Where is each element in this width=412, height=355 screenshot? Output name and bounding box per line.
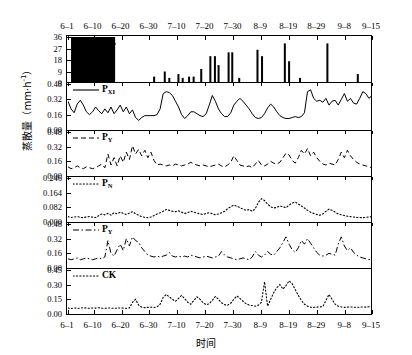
x-axis-bottom-tick-label: 7–20	[195, 321, 213, 330]
panel-py1: 0.480.320.160.00PY	[66, 131, 372, 177]
x-axis-top-tick-label: 8–9	[254, 22, 268, 31]
x-axis-bottom-tick-label: 6–20	[112, 321, 130, 330]
x-axis-top-tick-label: 7–20	[195, 22, 213, 31]
panel-ck-y-tick-label: 0.45	[22, 266, 62, 275]
x-axis-top-tick-label: 6–1	[60, 22, 74, 31]
legend-line-icon	[73, 227, 99, 233]
panel-pxi-legend-label: PXI	[102, 85, 115, 95]
x-tick-mark	[372, 223, 373, 226]
legend-line-icon	[73, 135, 99, 141]
panel-stack: 36271890P0.480.320.160.00PXI0.480.320.16…	[66, 35, 372, 315]
panel-pxi-legend: PXI	[73, 85, 115, 95]
panel-py2-y-tick-label: 0.32	[22, 234, 62, 243]
panel-precip-legend-label: P	[110, 42, 116, 52]
panel-precip-y-tick-label: 36	[22, 33, 62, 42]
precipitation-bar	[228, 52, 230, 83]
x-axis-top-tick-label: 6–30	[139, 22, 157, 31]
panel-pxi-y-tick-label: 0.32	[22, 95, 62, 104]
panel-ck-y-tick-label: 0.00	[22, 310, 62, 319]
x-tick-mark	[372, 36, 373, 40]
precipitation-bar	[218, 65, 220, 83]
x-axis-top-tick-label: 6–10	[84, 22, 102, 31]
panel-py1-legend: PY	[73, 133, 113, 143]
panel-py1-y-tick-label: 0.16	[22, 157, 62, 166]
panel-py1-plot-area	[68, 132, 372, 176]
x-axis-bottom-tick-label: 9–8	[337, 321, 351, 330]
precipitation-bar	[256, 50, 258, 83]
x-tick-mark	[372, 83, 373, 86]
panel-py1-legend-label-subscript: Y	[108, 136, 113, 143]
precipitation-bar	[200, 69, 202, 83]
panel-pn-legend-label: PN	[102, 179, 113, 189]
panel-pxi-legend-label-subscript: XI	[108, 88, 115, 95]
panel-py1-y-tick-label: 0.48	[22, 128, 62, 137]
panel-ck: 0.450.300.150.00CK	[66, 269, 372, 315]
precipitation-bar	[288, 61, 290, 83]
x-tick-mark	[372, 177, 373, 180]
panel-py1-y-tick-label: 0.32	[22, 142, 62, 151]
precipitation-bar	[177, 74, 179, 83]
precipitation-bar	[284, 43, 286, 83]
panel-py2-y-tick-label: 0.48	[22, 220, 62, 229]
precipitation-bar	[214, 56, 216, 83]
x-axis-bottom-tick-label: 6–10	[84, 321, 102, 330]
precipitation-bar	[261, 56, 263, 83]
panel-py2: 0.480.320.160.00PY	[66, 223, 372, 269]
x-axis-bottom-tick-label: 7–10	[167, 321, 185, 330]
chart-figure: 蒸散量（mm·h-1） 6–16–106–206–307–107–207–308…	[0, 0, 412, 355]
panel-py2-legend-label: PY	[102, 225, 113, 235]
panel-py2-series-line	[68, 237, 372, 260]
panel-precip-y-tick-label: 27	[22, 44, 62, 53]
panel-pn-series-line	[68, 199, 372, 218]
x-axis-top-tick-label: 9–8	[337, 22, 351, 31]
legend-line-icon	[73, 87, 99, 93]
panel-pn-legend-label-subscript: N	[108, 182, 113, 189]
precipitation-bar	[209, 56, 211, 83]
precipitation-bar	[231, 52, 233, 83]
x-axis-bottom-tick-label: 6–30	[139, 321, 157, 330]
panel-py2-y-tick-label: 0.16	[22, 249, 62, 258]
panel-py1-legend-label: PY	[102, 133, 113, 143]
panel-pn: 0.2460.1640.0820.000PN	[66, 177, 372, 223]
legend-line-icon	[73, 273, 99, 279]
panel-pn-legend: PN	[73, 179, 113, 189]
precipitation-bar	[357, 74, 359, 83]
panel-pn-plot-area	[68, 178, 372, 222]
panel-pn-y-tick-label: 0.082	[22, 203, 62, 212]
panel-ck-y-tick-mark	[67, 314, 71, 315]
x-axis-top-tick-label: 8–19	[279, 22, 297, 31]
panel-py2-plot-area	[68, 224, 372, 268]
panel-precip-legend: P	[73, 40, 116, 53]
panel-precip-y-tick-label: 9	[22, 67, 62, 76]
x-axis-top-tick-label: 7–10	[167, 22, 185, 31]
panel-py2-legend: PY	[73, 225, 113, 235]
panel-precip: 36271890P	[66, 35, 372, 83]
panel-pxi-y-tick-label: 0.48	[22, 80, 62, 89]
x-axis-bottom-tick-label: 8–29	[307, 321, 325, 330]
panel-pn-y-tick-label: 0.246	[22, 174, 62, 183]
x-axis-top-tick-label: 7–30	[223, 22, 241, 31]
panel-pxi-y-tick-label: 0.16	[22, 110, 62, 119]
panel-ck-legend: CK	[73, 271, 116, 281]
panel-ck-legend-label: CK	[102, 271, 116, 281]
precipitation-bar	[164, 72, 166, 84]
x-axis-top-tick-label: 8–29	[307, 22, 325, 31]
x-axis-bottom-tick-label: 8–9	[254, 321, 268, 330]
x-tick-mark	[372, 131, 373, 134]
precipitation-bar	[326, 43, 328, 83]
x-axis-bottom-tick-label: 8–19	[279, 321, 297, 330]
panel-precip-y-tick-label: 18	[22, 56, 62, 65]
panel-pn-y-tick-label: 0.164	[22, 188, 62, 197]
legend-line-icon	[73, 181, 99, 187]
x-axis-top-tick-label: 9–15	[362, 22, 380, 31]
panel-py2-legend-label-subscript: Y	[108, 228, 113, 235]
panel-ck-y-tick-label: 0.30	[22, 280, 62, 289]
x-axis-bottom-tick-label: 9–15	[362, 321, 380, 330]
panel-pxi: 0.480.320.160.00PXI	[66, 83, 372, 131]
x-axis-top-tick-label: 6–20	[112, 22, 130, 31]
x-axis-bottom-tick-label: 7–30	[223, 321, 241, 330]
panel-ck-y-tick-label: 0.15	[22, 295, 62, 304]
panel-ck-series-line	[68, 281, 372, 309]
legend-swatch-icon	[73, 40, 107, 53]
panel-py1-series-line	[68, 146, 372, 169]
